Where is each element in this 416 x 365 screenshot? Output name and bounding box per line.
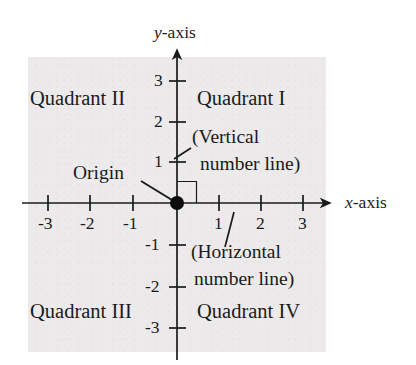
y-axis-label-variable: y: [154, 22, 162, 42]
x-axis-label-suffix: -axis: [353, 192, 387, 212]
x-axis-label: x-axis: [345, 194, 387, 212]
vertical-number-line-note-line1: (Vertical: [192, 127, 259, 147]
vertical-number-line-note-line2: number line): [200, 154, 300, 174]
x-axis-label-variable: x: [345, 192, 353, 212]
quadrant-3-label: Quadrant III: [30, 301, 132, 322]
y-tick-label-1: 1: [154, 153, 163, 171]
y-axis-label: y-axis: [154, 24, 196, 42]
origin-point: [170, 196, 184, 210]
figure-canvas: y-axis x-axis Quadrant II Quadrant I Qua…: [0, 0, 416, 365]
quadrant-2-label: Quadrant II: [30, 88, 125, 109]
y-tick-label-3: 3: [154, 72, 163, 90]
quadrant-4-label: Quadrant IV: [197, 301, 300, 322]
horizontal-number-line-note-line2: number line): [194, 269, 294, 289]
quadrant-1-label: Quadrant I: [197, 88, 285, 109]
x-tick-label-neg1: -1: [123, 215, 138, 233]
origin-leader-line: [141, 181, 172, 200]
y-tick-label-neg2: -2: [145, 278, 160, 296]
origin-label: Origin: [73, 163, 124, 183]
x-tick-label-1: 1: [214, 215, 223, 233]
x-tick-label-2: 2: [256, 215, 265, 233]
x-tick-label-neg3: -3: [38, 215, 53, 233]
y-tick-label-2: 2: [154, 113, 163, 131]
y-axis-label-suffix: -axis: [162, 22, 196, 42]
x-tick-label-3: 3: [298, 215, 307, 233]
horizontal-number-line-note-line1: (Horizontal: [191, 242, 281, 262]
x-tick-label-neg2: -2: [80, 215, 95, 233]
y-tick-label-neg1: -1: [145, 236, 160, 254]
y-tick-label-neg3: -3: [145, 319, 160, 337]
